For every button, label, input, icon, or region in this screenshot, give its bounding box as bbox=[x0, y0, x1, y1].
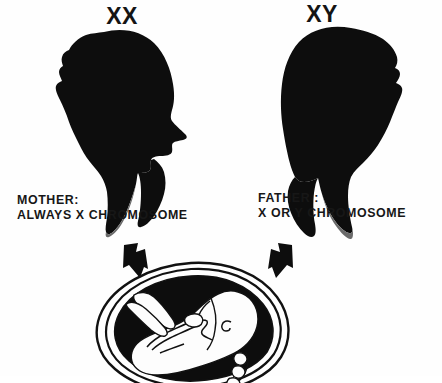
male-head-silhouette-icon bbox=[253, 22, 423, 198]
mother-caption-line-1: MOTHER: bbox=[17, 193, 188, 208]
mother-silhouette bbox=[38, 26, 208, 198]
father-silhouette bbox=[253, 22, 423, 198]
fetus-in-womb bbox=[88, 258, 298, 383]
mother-caption: MOTHER: ALWAYS X CHROMOSOME bbox=[17, 193, 188, 223]
mother-caption-line-2: ALWAYS X CHROMOSOME bbox=[17, 208, 188, 223]
father-caption-line-1: FATHER : bbox=[258, 191, 406, 206]
father-caption-line-2: X OR Y CHROMOSOME bbox=[258, 206, 406, 221]
father-caption: FATHER : X OR Y CHROMOSOME bbox=[258, 191, 406, 221]
fetus-in-womb-icon bbox=[88, 258, 298, 383]
female-head-silhouette-icon bbox=[38, 26, 208, 198]
